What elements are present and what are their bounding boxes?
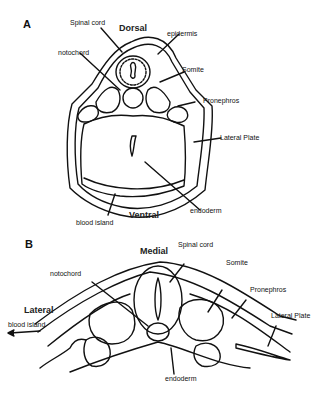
label-somite-a: Somite [182, 66, 204, 73]
orientation-dorsal: Dorsal [119, 23, 147, 33]
b-somite-right [179, 299, 223, 340]
label-endoderm-a: endoderm [190, 207, 222, 214]
somite-left [96, 87, 120, 112]
spinal-cord-shape [116, 56, 150, 88]
blastocoel-slit [131, 136, 137, 156]
b-neural-canal [155, 278, 161, 320]
orientation-ventral: Ventral [129, 210, 159, 220]
label-blood-island-b: blood island [8, 321, 45, 328]
panel-a-letter: A [23, 18, 31, 30]
neural-canal [130, 63, 135, 79]
label-notochord-b: notochord [50, 270, 81, 277]
orientation-lateral: Lateral [24, 305, 54, 315]
label-blood-island-a: blood island [76, 219, 113, 226]
somite-right [146, 87, 170, 112]
label-lateral-plate-a: Lateral Plate [220, 134, 259, 141]
b-endoderm [70, 342, 250, 372]
label-pronephros-a: Pronephros [203, 97, 239, 104]
label-endoderm-b: endoderm [165, 375, 197, 382]
b-lateral-left [40, 339, 86, 368]
orientation-medial: Medial [140, 246, 168, 256]
label-pronephros-b: Pronephros [250, 286, 286, 293]
label-spinal-cord-a: Spinal cord [70, 19, 105, 26]
label-spinal-cord-b: Spinal cord [178, 241, 213, 248]
label-notochord-a: notochord [58, 49, 89, 56]
label-somite-b: Somite [226, 259, 248, 266]
panel-b-letter: B [25, 238, 33, 250]
diagram-drawing [0, 0, 329, 395]
notochord-shape [123, 88, 143, 108]
label-lateral-plate-b: Lateral Plate [271, 312, 310, 319]
label-epidermis-a: epidermis [167, 30, 197, 37]
